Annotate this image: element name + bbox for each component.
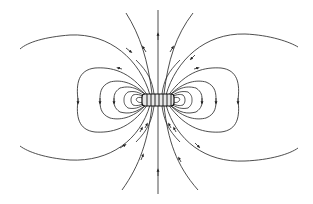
magnetic-field-diagram <box>0 0 313 204</box>
field-line-open-bottom-left <box>122 106 152 190</box>
field-line-wide-bottom-left <box>20 105 150 160</box>
field-line-loop-left-1 <box>77 68 148 132</box>
field-line-wide-top-right <box>166 34 298 95</box>
field-line-loop-right-1 <box>168 68 239 132</box>
field-line-wide-bottom-right <box>166 105 298 161</box>
field-line-open-top-right <box>164 13 193 94</box>
field-line-open-top-left <box>126 13 152 94</box>
field-line-wide-top-left <box>20 35 150 95</box>
solenoid <box>142 94 174 106</box>
